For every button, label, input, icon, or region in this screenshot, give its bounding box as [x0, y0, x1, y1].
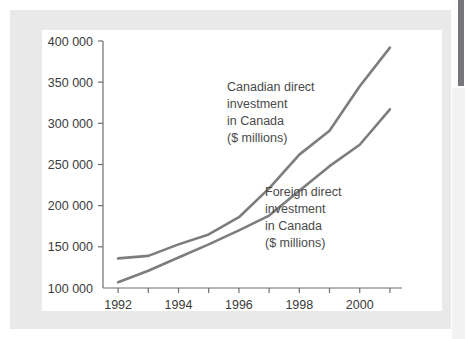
annotation-line: in Canada: [265, 219, 322, 233]
annotation-line: Canadian direct: [227, 80, 315, 94]
x-tick-label: 1996: [225, 298, 253, 312]
annotation-line: Foreign direct: [265, 185, 342, 199]
y-tick-label: 300 000: [48, 117, 93, 131]
y-tick-label: 150 000: [48, 240, 93, 254]
line-chart: 100 000150 000200 000250 000300 000350 0…: [0, 0, 467, 339]
y-tick-label: 200 000: [48, 199, 93, 213]
y-tick-label: 400 000: [48, 35, 93, 49]
annotation-line: investment: [227, 97, 288, 111]
y-tick-label: 100 000: [48, 282, 93, 296]
x-tick-label: 2000: [346, 298, 374, 312]
annotation-line: ($ millions): [265, 236, 325, 250]
y-tick-label: 250 000: [48, 158, 93, 172]
annotation-line: ($ millions): [227, 131, 287, 145]
x-axis: 19921994199619982000: [103, 288, 402, 312]
annotation-line: investment: [265, 202, 326, 216]
x-tick-label: 1998: [285, 298, 313, 312]
y-tick-label: 350 000: [48, 76, 93, 90]
annotation-line: in Canada: [227, 114, 284, 128]
y-axis: 100 000150 000200 000250 000300 000350 0…: [48, 35, 103, 296]
annotation-foreign: Foreign directinvestmentin Canada($ mill…: [265, 185, 342, 250]
annotation-canadian: Canadian directinvestmentin Canada($ mil…: [227, 80, 315, 145]
series-annotations: Canadian directinvestmentin Canada($ mil…: [227, 80, 342, 250]
x-tick-label: 1992: [104, 298, 132, 312]
x-tick-label: 1994: [165, 298, 193, 312]
